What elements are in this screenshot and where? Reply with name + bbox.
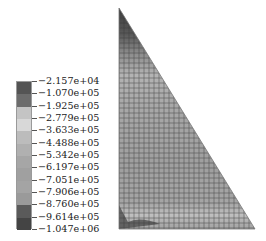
contour-plot — [0, 0, 266, 241]
